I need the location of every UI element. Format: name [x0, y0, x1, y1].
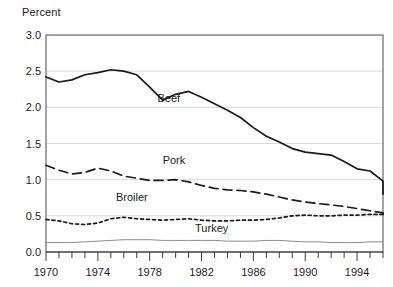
- x-axis-tick-labels: 1970197419781982198619901994: [34, 266, 370, 278]
- line-chart-plot: 0.00.51.01.52.02.53.0 197019741978198219…: [0, 0, 393, 287]
- series-label-beef: Beef: [157, 92, 181, 104]
- x-axis-tick-label: 1986: [241, 266, 265, 278]
- data-series: [46, 70, 383, 243]
- y-axis-tick-label: 0.5: [26, 210, 41, 222]
- series-line-turkey: [46, 240, 383, 243]
- series-line-pork: [46, 165, 383, 214]
- chart-container: Percent 0.00.51.01.52.02.53.0 1970197419…: [0, 0, 393, 287]
- x-axis-tick-label: 1982: [189, 266, 213, 278]
- y-axis-tick-labels: 0.00.51.01.52.02.53.0: [26, 29, 41, 258]
- y-axis-tick-label: 3.0: [26, 29, 41, 41]
- x-axis-tick-label: 1978: [137, 266, 161, 278]
- x-axis-tick-label: 1974: [86, 266, 110, 278]
- x-axis-tick-marks: [46, 252, 383, 261]
- x-axis-tick-label: 1970: [34, 266, 58, 278]
- y-axis-tick-label: 1.0: [26, 174, 41, 186]
- gridlines: [46, 71, 383, 216]
- x-axis-tick-label: 1990: [293, 266, 317, 278]
- series-line-beef: [46, 70, 383, 194]
- y-axis-tick-label: 0.0: [26, 246, 41, 258]
- series-annotations: BeefPorkBroilerTurkey: [116, 92, 229, 233]
- series-label-turkey: Turkey: [195, 222, 229, 234]
- y-axis-tick-label: 2.5: [26, 65, 41, 77]
- series-label-pork: Pork: [163, 154, 186, 166]
- series-label-broiler: Broiler: [116, 191, 148, 203]
- x-axis-tick-label: 1994: [345, 266, 369, 278]
- y-axis-tick-label: 2.0: [26, 101, 41, 113]
- y-axis-tick-label: 1.5: [26, 138, 41, 150]
